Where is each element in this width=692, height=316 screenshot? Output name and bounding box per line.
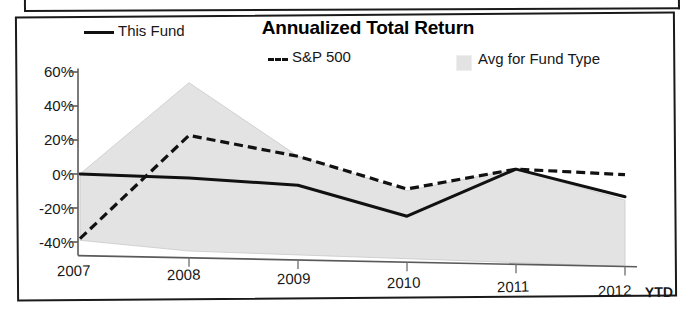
plot-area [0, 0, 692, 316]
chart-screenshot: Annualized Total Return This Fund S&P 50… [0, 0, 692, 316]
